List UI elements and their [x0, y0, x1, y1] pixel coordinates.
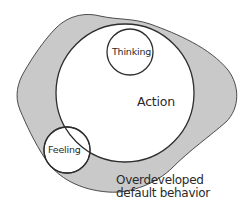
overdeveloped-caption: Overdeveloped default behavior [116, 174, 210, 200]
caption-line-2: default behavior [116, 187, 210, 200]
thinking-label: Thinking [112, 47, 151, 57]
action-label: Action [137, 96, 175, 109]
feeling-label: Feeling [48, 145, 81, 155]
diagram: Thinking Action Feeling Overdeveloped de… [0, 0, 250, 210]
